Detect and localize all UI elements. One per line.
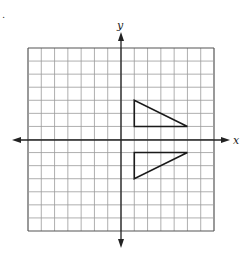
x-axis-label: x	[233, 134, 240, 147]
y-axis-top-arrow-icon	[118, 32, 124, 41]
x-axis-right-arrow-icon	[221, 137, 230, 143]
y-axis-bottom-arrow-icon	[118, 239, 124, 248]
x-axis-left-arrow-icon	[12, 137, 21, 143]
marker-dot: .	[2, 9, 5, 20]
y-axis-label: y	[116, 19, 124, 32]
axes: x y	[12, 19, 240, 248]
coordinate-plane: . x y	[0, 0, 251, 262]
